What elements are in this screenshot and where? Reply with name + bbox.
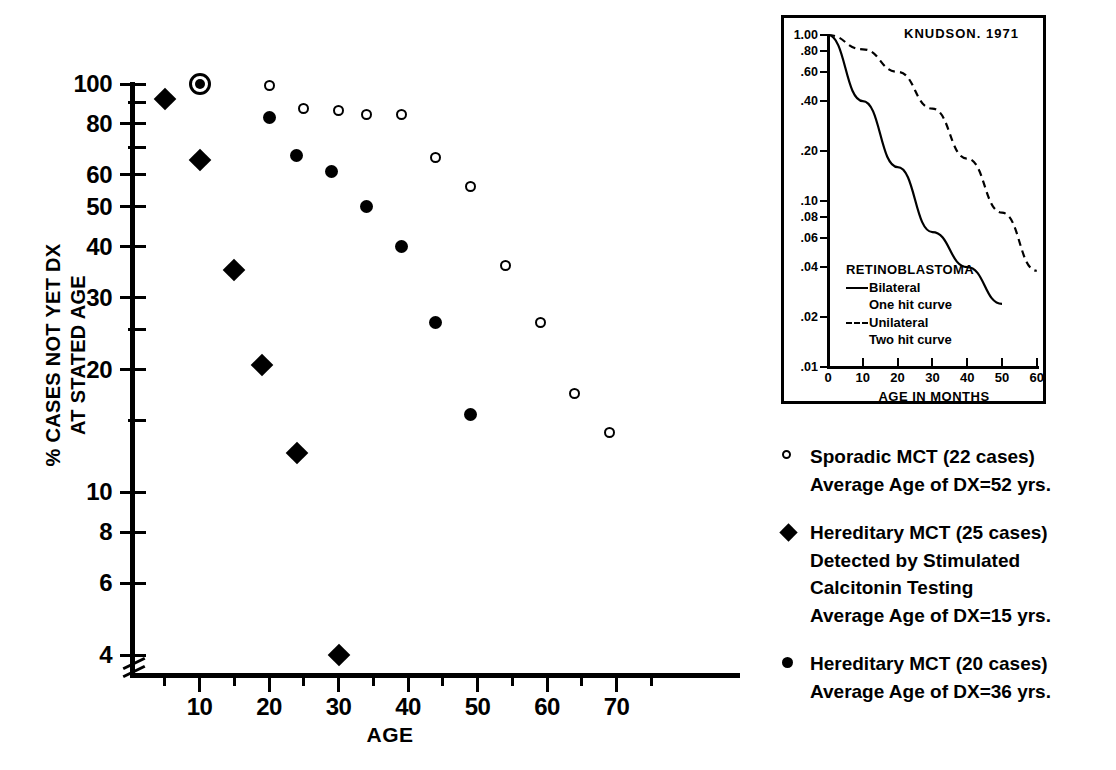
y-tick-major <box>120 654 146 657</box>
x-tick-major <box>476 675 479 692</box>
inset-legend-label: Unilateral <box>868 314 928 332</box>
x-tick-major <box>407 675 410 692</box>
diamond-glyph <box>779 523 797 541</box>
data-point-filled-circle <box>429 316 442 329</box>
data-point-diamond <box>285 442 308 465</box>
legend-entry[interactable]: Hereditary MCT (25 cases)Detected by Sti… <box>782 519 1112 629</box>
x-tick-label: 70 <box>587 693 647 721</box>
open-circle-glyph <box>782 450 791 459</box>
y-tick-label: 6 <box>52 569 112 597</box>
inset-legend-sub: Two hit curve <box>846 331 974 349</box>
legend-entry-detail: Average Age of DX=15 yrs. <box>782 602 1112 630</box>
y-tick-major <box>120 173 146 176</box>
inset-legend-sub: One hit curve <box>846 296 974 314</box>
y-tick-label: 4 <box>52 641 112 669</box>
data-point-open-circle <box>569 388 580 399</box>
main-scatter-chart: 10080605040302010864 10203040506070 % CA… <box>0 0 760 770</box>
y-tick-label: 80 <box>52 110 112 138</box>
data-point-open-circle <box>298 103 309 114</box>
y-tick-major <box>120 83 146 86</box>
data-point-filled-circle <box>263 111 276 124</box>
legend-entry-title: Sporadic MCT (22 cases) <box>810 443 1035 471</box>
filled-circle-glyph <box>782 657 793 668</box>
y-tick-major <box>120 205 146 208</box>
x-tick-major <box>198 675 201 692</box>
y-tick-minor <box>128 419 146 422</box>
dashed-line-swatch-icon <box>846 322 868 324</box>
data-point-open-circle <box>361 109 372 120</box>
y-tick-major <box>120 245 146 248</box>
solid-line-swatch-icon <box>846 287 868 289</box>
x-tick-minor <box>233 675 236 686</box>
knudson-inset-panel: KNUDSON. 1971 1.00.80.60.40.20.10.08.06.… <box>781 15 1046 404</box>
x-axis-line <box>130 673 740 678</box>
y-tick-minor <box>128 328 146 331</box>
y-axis-line <box>130 82 135 678</box>
legend-entry-detail: Calcitonin Testing <box>782 574 1112 602</box>
legend-entry[interactable]: Hereditary MCT (20 cases)Average Age of … <box>782 650 1112 705</box>
inset-legend-item-unilateral: Unilateral <box>846 314 974 332</box>
legend-entry[interactable]: Sporadic MCT (22 cases)Average Age of DX… <box>782 443 1112 498</box>
data-point-diamond <box>327 644 350 667</box>
data-point-diamond <box>153 87 176 110</box>
y-tick-major <box>120 582 146 585</box>
x-tick-minor <box>372 675 375 686</box>
data-point-diamond <box>251 354 274 377</box>
data-point-concentric <box>189 73 211 95</box>
y-tick-minor <box>128 101 146 104</box>
x-tick-major <box>546 675 549 692</box>
filled-circle-icon <box>782 650 810 668</box>
y-axis-title-line: AT STATED AGE <box>66 205 91 505</box>
y-tick-major <box>120 531 146 534</box>
data-point-open-circle <box>500 260 511 271</box>
inset-legend-header: RETINOBLASTOMA <box>846 261 974 279</box>
y-tick-label: 8 <box>52 518 112 546</box>
data-point-filled-circle <box>325 165 338 178</box>
data-point-open-circle <box>604 427 615 438</box>
y-tick-label: 100 <box>52 70 112 98</box>
y-tick-label: 60 <box>52 161 112 189</box>
x-tick-minor <box>650 675 653 686</box>
data-point-filled-circle <box>395 240 408 253</box>
legend-entry-detail: Detected by Stimulated <box>782 547 1112 575</box>
inset-legend-item-bilateral: Bilateral <box>846 279 974 297</box>
x-tick-label: 20 <box>239 693 299 721</box>
legend-entry-detail: Average Age of DX=36 yrs. <box>782 678 1112 706</box>
x-tick-minor <box>441 675 444 686</box>
x-tick-label: 50 <box>448 693 508 721</box>
x-tick-minor <box>302 675 305 686</box>
y-axis-title: % CASES NOT YET DXAT STATED AGE <box>41 205 91 505</box>
x-tick-major <box>337 675 340 692</box>
x-axis-title: AGE <box>330 723 450 747</box>
x-tick-minor <box>580 675 583 686</box>
inset-legend-label: Bilateral <box>868 279 920 297</box>
data-point-open-circle <box>465 181 476 192</box>
y-axis-title-line: % CASES NOT YET DX <box>41 205 66 505</box>
data-point-open-circle <box>264 80 275 91</box>
chart-legend: Sporadic MCT (22 cases)Average Age of DX… <box>782 443 1112 726</box>
x-tick-label: 40 <box>378 693 438 721</box>
x-tick-major <box>615 675 618 692</box>
inset-legend: RETINOBLASTOMA Bilateral One hit curve U… <box>846 261 974 349</box>
y-tick-minor <box>128 146 146 149</box>
x-tick-major <box>268 675 271 692</box>
data-point-open-circle <box>430 152 441 163</box>
data-point-open-circle <box>396 109 407 120</box>
data-point-diamond <box>223 259 246 282</box>
data-point-diamond <box>188 149 211 172</box>
x-tick-label: 60 <box>517 693 577 721</box>
data-point-filled-circle <box>290 149 303 162</box>
legend-entry-title: Hereditary MCT (25 cases) <box>810 519 1048 547</box>
inset-x-axis-title: AGE IN MONTHS <box>844 389 1024 404</box>
y-tick-major <box>120 296 146 299</box>
x-tick-label: 30 <box>309 693 369 721</box>
y-tick-major <box>120 122 146 125</box>
x-tick-minor <box>163 675 166 686</box>
inset-curve-dashed <box>828 35 1037 271</box>
data-point-filled-circle <box>464 408 477 421</box>
legend-entry-detail: Average Age of DX=52 yrs. <box>782 471 1112 499</box>
x-tick-label: 10 <box>170 693 230 721</box>
legend-entry-title: Hereditary MCT (20 cases) <box>810 650 1048 678</box>
y-tick-major <box>120 368 146 371</box>
data-point-open-circle <box>333 105 344 116</box>
